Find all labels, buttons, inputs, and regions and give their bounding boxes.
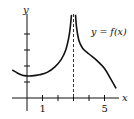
x-tick-labels: 15: [40, 103, 108, 114]
x-axis-label: x: [122, 92, 128, 103]
y-axis-label: y: [22, 4, 29, 15]
function-annotation: y = f(x): [90, 26, 127, 37]
curve-left-branch: [12, 15, 71, 76]
function-graph: y x y = f(x) 15: [0, 0, 134, 119]
x-tick-label: 5: [102, 103, 108, 114]
x-tick-label: 1: [40, 103, 46, 114]
